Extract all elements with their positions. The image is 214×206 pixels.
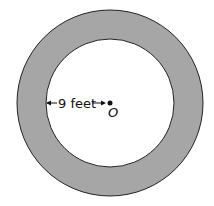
center-label: O <box>108 105 118 120</box>
annulus-diagram: 9 feet O <box>0 0 214 206</box>
radius-label: 9 feet <box>58 96 96 111</box>
